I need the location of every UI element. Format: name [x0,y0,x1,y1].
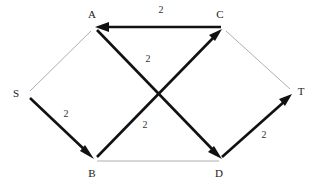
edge-weight-s-b: 2 [64,108,69,119]
node-label-s: S [13,87,19,99]
node-label-c: C [216,8,223,20]
node-label-t: T [298,85,305,97]
edge-c-t [226,31,290,89]
edge-c-a [95,22,221,32]
edge-weight-b-c: 2 [143,119,148,130]
edge-weight-a-d: 2 [146,53,151,64]
edge-d-t [222,94,292,157]
edge-weight-d-t: 2 [262,129,267,140]
node-label-a: A [88,8,96,20]
edge-s-a [30,31,91,91]
node-label-b: B [88,167,95,179]
node-label-d: D [215,167,223,179]
edge-s-b [30,98,94,159]
graph-canvas: S A B C D T 2 2 2 2 2 [0,0,322,185]
flow-network-diagram: S A B C D T 2 2 2 2 2 [0,0,322,185]
edge-weight-c-a: 2 [159,4,164,15]
